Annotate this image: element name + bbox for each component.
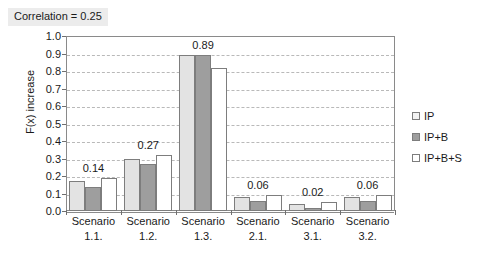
bar-group: 0.06: [340, 36, 395, 211]
bar: [360, 201, 376, 212]
y-tick-label: 0.3: [21, 153, 61, 164]
category-line-1: Scenario: [236, 215, 279, 227]
legend-swatch-icon: [412, 154, 420, 162]
category-line-1: Scenario: [346, 215, 389, 227]
category-line-2: 1.1.: [66, 229, 121, 244]
legend-item: IP: [412, 110, 482, 122]
bar-group: 0.06: [231, 36, 286, 211]
bar: [69, 181, 85, 211]
bar: [234, 197, 250, 211]
y-tick-label: 0.7: [21, 83, 61, 94]
chart-title: Correlation = 0.25: [8, 8, 108, 26]
bar: [344, 197, 360, 211]
legend-label: IP+B+S: [424, 152, 462, 164]
bar-group: 0.02: [285, 36, 340, 211]
y-tick-label: 0.9: [21, 48, 61, 59]
legend-swatch-icon: [412, 133, 420, 141]
chart-legend: IPIP+BIP+B+S: [412, 110, 482, 173]
bars-row: [285, 36, 340, 211]
legend-label: IP+B: [424, 131, 448, 143]
y-tick-label: 0.4: [21, 136, 61, 147]
x-axis-category-label: Scenario3.1.: [285, 214, 340, 244]
y-tick-label: 0.6: [21, 101, 61, 112]
x-tick-mark: [121, 210, 122, 215]
legend-item: IP+B+S: [412, 152, 482, 164]
bars-row: [66, 36, 121, 211]
y-tick-label: 0.0: [21, 206, 61, 217]
bar: [376, 195, 392, 211]
y-tick-label: 0.1: [21, 188, 61, 199]
category-line-1: Scenario: [181, 215, 224, 227]
x-axis-category-label: Scenario1.3.: [176, 214, 231, 244]
x-tick-mark: [340, 210, 341, 215]
category-line-1: Scenario: [291, 215, 334, 227]
bar: [101, 178, 117, 211]
category-line-2: 2.1.: [231, 229, 286, 244]
bars-row: [176, 36, 231, 211]
bar: [321, 202, 337, 211]
x-axis-category-label: Scenario1.1.: [66, 214, 121, 244]
bar-value-label: 0.89: [173, 40, 233, 51]
x-tick-mark: [395, 210, 396, 215]
bar: [124, 159, 140, 212]
bar-group: 0.14: [66, 36, 121, 211]
x-axis-labels: Scenario1.1.Scenario1.2.Scenario1.3.Scen…: [66, 214, 395, 258]
y-tick-label: 1.0: [21, 31, 61, 42]
bar-chart: Correlation = 0.25 F(x) increase 1.00.90…: [0, 0, 486, 263]
bar: [156, 155, 172, 211]
bar: [179, 55, 195, 211]
bar-group: 0.89: [176, 36, 231, 211]
bar-group: 0.27: [121, 36, 176, 211]
category-line-1: Scenario: [72, 215, 115, 227]
x-axis-category-label: Scenario1.2.: [121, 214, 176, 244]
x-tick-mark: [231, 210, 232, 215]
bar: [305, 208, 321, 212]
category-line-2: 1.3.: [176, 229, 231, 244]
bar-groups: 0.140.270.890.060.020.06: [66, 36, 395, 211]
bar-value-label: 0.27: [118, 140, 178, 151]
bar: [195, 55, 211, 211]
y-tick-label: 0.5: [21, 118, 61, 129]
legend-item: IP+B: [412, 131, 482, 143]
x-tick-mark: [176, 210, 177, 215]
x-axis-category-label: Scenario2.1.: [231, 214, 286, 244]
category-line-2: 3.2.: [340, 229, 395, 244]
x-tick-mark: [285, 210, 286, 215]
bars-row: [121, 36, 176, 211]
bar: [140, 164, 156, 211]
bar: [85, 187, 101, 212]
bar: [266, 195, 282, 211]
legend-swatch-icon: [412, 112, 420, 120]
bar-value-label: 0.14: [63, 163, 123, 174]
y-tick-label: 0.8: [21, 66, 61, 77]
x-tick-mark: [66, 210, 67, 215]
x-axis-category-label: Scenario3.2.: [340, 214, 395, 244]
bar-value-label: 0.02: [283, 187, 343, 198]
bar: [289, 204, 305, 211]
y-tick-label: 0.2: [21, 171, 61, 182]
bar: [250, 201, 266, 212]
legend-label: IP: [424, 110, 434, 122]
bar: [211, 68, 227, 212]
category-line-2: 3.1.: [285, 229, 340, 244]
bar-value-label: 0.06: [338, 180, 398, 191]
bar-value-label: 0.06: [228, 180, 288, 191]
category-line-2: 1.2.: [121, 229, 176, 244]
category-line-1: Scenario: [127, 215, 170, 227]
